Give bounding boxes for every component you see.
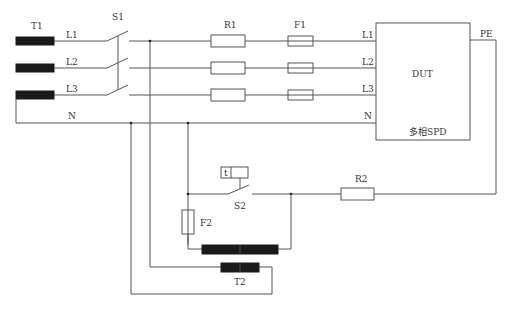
- line-label-l2: L2: [66, 57, 78, 67]
- resistor-r1: R1: [211, 20, 245, 101]
- line-label-l1: L1: [66, 30, 78, 40]
- pe-label: PE: [480, 29, 493, 39]
- r1-label: R1: [224, 20, 237, 30]
- line-label-l3: L3: [66, 84, 78, 94]
- switch-s2: t S2: [187, 167, 293, 211]
- t1-core-l2: [16, 64, 54, 72]
- fuse-f1: F1: [288, 20, 313, 100]
- switch-s1: S1: [107, 12, 128, 95]
- fuse-f2: F2: [182, 210, 212, 234]
- t1-core-l3: [16, 91, 54, 99]
- s1-label: S1: [112, 12, 124, 22]
- dut-label: DUT: [412, 69, 433, 79]
- t1-label: T1: [31, 21, 43, 31]
- s2-label: S2: [234, 201, 246, 211]
- t1-core-l1: [16, 37, 54, 45]
- f2-label: F2: [200, 218, 212, 228]
- dut-box: DUT 多相SPD: [376, 23, 470, 140]
- r2-body: [341, 188, 374, 200]
- dut-terminal-l1: L1: [362, 30, 374, 40]
- resistor-r2: R2: [341, 174, 374, 200]
- f1-label: F1: [294, 20, 306, 30]
- line-label-n: N: [68, 111, 76, 121]
- r1-l3: [211, 89, 245, 101]
- dut-rectangle: [376, 23, 470, 140]
- dut-sublabel: 多相SPD: [409, 126, 446, 137]
- t2-label: T2: [234, 277, 246, 287]
- s2-blade: [228, 185, 249, 194]
- r1-l2: [211, 62, 245, 74]
- dut-terminal-n: N: [364, 111, 372, 121]
- s2-timer-label: t: [224, 168, 228, 178]
- dut-terminal-l2: L2: [362, 57, 374, 67]
- transformer-t1: T1: [16, 21, 54, 99]
- r2-label: R2: [355, 174, 368, 184]
- dut-terminal-l3: L3: [362, 84, 374, 94]
- circuit-diagram: T1 L1 L2 L3 N S1 R1 F1: [0, 0, 511, 309]
- r1-l1: [211, 35, 245, 47]
